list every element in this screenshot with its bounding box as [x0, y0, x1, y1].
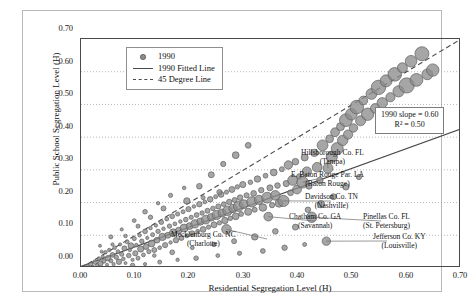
data-point — [229, 186, 235, 192]
data-point — [244, 193, 249, 198]
callout-city: (St. Petersburg) — [363, 222, 410, 231]
regression-stats-box: 1990 slope = 0.60 R² = 0.50 — [375, 107, 444, 134]
data-point — [168, 193, 172, 197]
data-point — [176, 212, 180, 216]
data-point — [273, 229, 279, 235]
data-point — [158, 260, 162, 264]
data-point — [216, 254, 220, 258]
data-point — [237, 251, 241, 255]
data-point — [91, 265, 94, 267]
data-point — [132, 219, 136, 223]
data-point — [124, 262, 127, 265]
legend-item-45-degree-line: 45 Degree Line — [132, 74, 215, 86]
data-point — [102, 259, 106, 263]
data-point — [104, 251, 108, 255]
data-point — [143, 262, 146, 265]
data-point — [186, 207, 191, 212]
callout-city: (Baton Rouge) — [291, 180, 364, 189]
callout-county: Hillsborough Co. FL — [301, 148, 364, 157]
data-point — [112, 262, 115, 265]
callout-east-baton-rouge: E. Baton Rouge Par. LA (Baton Rouge) — [291, 171, 364, 188]
data-point — [259, 187, 264, 192]
data-point — [148, 215, 152, 219]
data-point — [208, 172, 214, 178]
data-point — [170, 250, 175, 255]
data-point — [170, 214, 175, 219]
data-point — [156, 229, 160, 233]
xtick-label: 0.50 — [334, 271, 368, 279]
data-point — [240, 181, 246, 187]
data-point — [217, 190, 222, 195]
data-point — [173, 222, 177, 226]
data-point — [132, 236, 136, 240]
data-point — [122, 246, 127, 251]
dashed-line-icon — [132, 75, 154, 85]
data-point — [269, 203, 274, 208]
data-point — [211, 222, 217, 228]
data-point — [235, 185, 239, 189]
data-point — [146, 236, 149, 239]
legend-item-1990: 1990 — [132, 51, 215, 63]
data-point — [131, 258, 134, 261]
data-point — [222, 217, 228, 223]
callout-city: (Nashville) — [305, 202, 358, 211]
data-point — [284, 161, 292, 169]
data-point — [260, 249, 265, 254]
legend-item-fitted-line: 1990 Fitted Line — [132, 63, 215, 75]
figure-border: 0.70 0.60 0.50 0.40 0.30 0.20 0.10 0.00 … — [22, 10, 442, 292]
callout-davidson: Davidson Co. TN (Nashville) — [305, 193, 358, 210]
data-point — [136, 224, 140, 228]
solid-line-icon — [132, 63, 154, 73]
data-point — [113, 246, 117, 250]
data-point — [184, 198, 190, 204]
data-point — [165, 217, 169, 221]
data-point — [135, 243, 139, 247]
data-point — [182, 186, 186, 190]
data-point — [349, 124, 357, 132]
callout-county: Pinellas Co. FL — [363, 212, 410, 221]
data-point — [192, 205, 196, 209]
callout-county: Jefferson Co. KY — [373, 232, 426, 241]
data-point — [156, 202, 159, 205]
xtick-label: 0.70 — [443, 271, 472, 279]
data-point — [259, 204, 267, 212]
data-point — [106, 263, 109, 266]
data-point — [405, 55, 417, 67]
data-point — [163, 243, 168, 248]
data-point — [232, 152, 239, 159]
data-point — [224, 190, 228, 194]
data-point — [167, 224, 171, 228]
data-point — [206, 225, 210, 229]
data-point — [263, 173, 268, 178]
data-point — [152, 248, 157, 253]
data-point — [251, 191, 257, 197]
data-point — [116, 259, 121, 264]
data-point — [108, 248, 111, 251]
data-point — [221, 161, 226, 166]
data-point — [149, 226, 153, 230]
data-point — [237, 195, 243, 201]
data-point — [216, 204, 221, 209]
data-point — [151, 233, 155, 237]
data-point — [179, 220, 183, 224]
data-point — [181, 210, 185, 214]
xtick-label: 0.00 — [63, 271, 97, 279]
chart-legend: 1990 1990 Fitted Line 45 Degree Line — [126, 47, 223, 90]
data-point — [410, 73, 423, 86]
data-point — [130, 263, 134, 267]
data-point — [97, 257, 101, 261]
data-point — [109, 235, 113, 239]
bubble-marker-icon — [132, 52, 154, 62]
data-point — [292, 158, 299, 165]
data-point — [122, 257, 126, 261]
data-point — [159, 220, 164, 225]
data-point — [147, 250, 151, 254]
data-point — [359, 96, 368, 105]
callout-chatham: Chatham Co. GA (Savannah) — [289, 213, 341, 230]
data-point — [124, 234, 128, 238]
data-point — [138, 246, 144, 252]
data-point — [415, 47, 429, 61]
data-point — [214, 195, 218, 199]
data-point — [99, 244, 102, 247]
data-point — [427, 64, 439, 76]
